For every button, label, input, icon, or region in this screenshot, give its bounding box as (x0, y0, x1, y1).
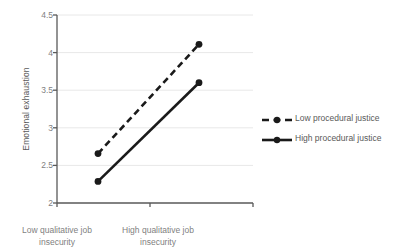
x-tick-label-high-insecurity: High qualitative job insecurity (102, 225, 214, 248)
data-point (196, 41, 203, 48)
y-tick-label: 3 (31, 124, 53, 133)
y-tick-label: 2 (31, 199, 53, 208)
x-tick-label-line: Low qualitative job (1, 225, 113, 237)
plot-area: Low qualitative job insecurity High qual… (57, 15, 253, 203)
y-axis-tick-labels: 4.5 4 3.5 3 2.5 2 (27, 0, 53, 249)
legend-item-high-procedural-justice: High procedural justice (262, 128, 408, 148)
x-axis (57, 203, 253, 207)
interaction-line-chart: Emotional exhaustion 4.5 4 3.5 3 2.5 2 (0, 0, 408, 249)
x-tick-label-line: insecurity (102, 237, 214, 249)
y-axis (53, 15, 57, 203)
y-tick-label: 4 (31, 49, 53, 58)
x-tick-label-low-insecurity: Low qualitative job insecurity (1, 225, 113, 248)
x-tick-label-line: High qualitative job (102, 225, 214, 237)
legend-item-low-procedural-justice: Low procedural justice (262, 108, 408, 128)
y-tick-label: 2.5 (31, 161, 53, 170)
x-tick-label-line: insecurity (1, 237, 113, 249)
y-tick-label: 4.5 (31, 11, 53, 20)
plot-svg (57, 15, 257, 207)
legend-key-dashed-line-icon (262, 112, 292, 124)
series-low-procedural-justice (95, 41, 203, 157)
legend-key-solid-line-icon (262, 132, 292, 144)
series-high-procedural-justice (95, 79, 203, 185)
gridlines (57, 15, 253, 165)
legend-label: Low procedural justice (295, 113, 380, 123)
data-point (95, 178, 102, 185)
y-tick-label: 3.5 (31, 86, 53, 95)
data-point (95, 150, 102, 157)
legend: Low procedural justice High procedural j… (262, 108, 408, 148)
data-point (196, 79, 203, 86)
legend-label: High procedural justice (295, 133, 381, 143)
